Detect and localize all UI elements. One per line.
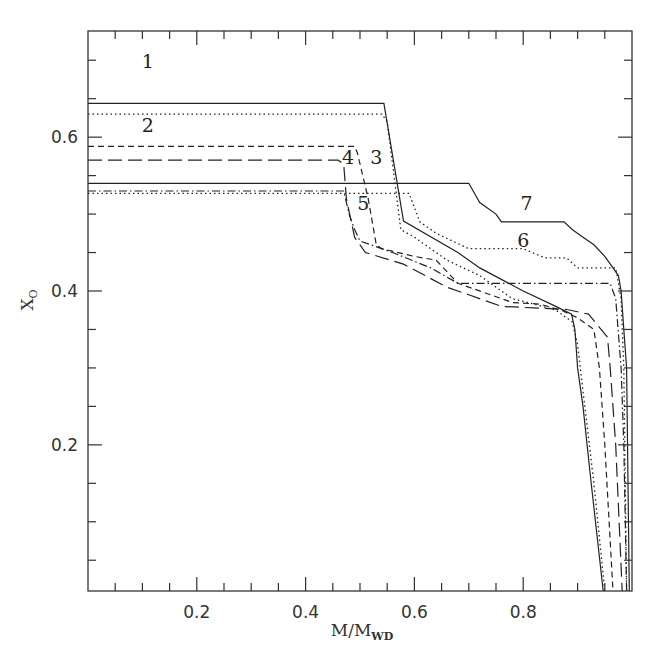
x-tick-label: 0.6 <box>401 602 428 622</box>
curve-5 <box>88 191 627 591</box>
x-tick-label: 0.4 <box>292 602 319 622</box>
curve-label-2: 2 <box>142 114 154 136</box>
y-axis-label: XO <box>17 289 40 310</box>
curve-label-3: 3 <box>370 146 382 168</box>
curve-6 <box>88 193 627 591</box>
curve-7 <box>88 183 629 591</box>
x-axis-label: M/MWD <box>331 620 394 643</box>
tick-labels: 0.20.40.60.80.20.40.6 <box>51 127 537 622</box>
y-axis-label-main: X <box>17 298 37 311</box>
curve-label-6: 6 <box>517 229 529 251</box>
x-axis-label-main: M/M <box>331 620 372 640</box>
curve-labels: 1234567 <box>142 50 533 251</box>
curve-4 <box>88 160 622 591</box>
y-tick-label: 0.6 <box>51 127 78 147</box>
curve-label-1: 1 <box>142 50 154 72</box>
y-axis-label-sub: O <box>27 289 40 298</box>
curve-label-5: 5 <box>357 192 369 214</box>
chart: 0.20.40.60.80.20.40.6 1234567 M/MWD XO <box>0 0 656 671</box>
curve-label-7: 7 <box>520 192 532 214</box>
x-tick-label: 0.8 <box>510 602 537 622</box>
curve-label-4: 4 <box>342 146 354 168</box>
data-series <box>88 103 629 591</box>
curve-3 <box>88 146 613 591</box>
curve-2 <box>88 114 605 591</box>
x-tick-label: 0.2 <box>183 602 210 622</box>
axis-ticks <box>88 31 632 591</box>
y-tick-label: 0.4 <box>51 281 78 301</box>
plot-frame <box>88 31 632 591</box>
y-tick-label: 0.2 <box>51 435 78 455</box>
x-axis-label-sub: WD <box>370 630 393 643</box>
curve-1 <box>88 103 603 591</box>
